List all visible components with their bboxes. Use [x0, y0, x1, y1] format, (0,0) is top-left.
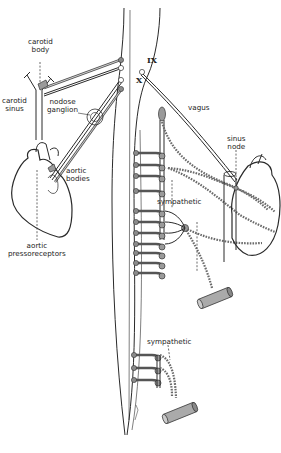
spinal-cord-inner-line — [129, 10, 130, 420]
spinal-nucleus — [131, 377, 136, 382]
sympathetic-ramus — [136, 253, 162, 256]
label-line: sinus — [2, 105, 27, 113]
spinal-nucleus — [133, 162, 138, 167]
label-line: ganglion — [47, 106, 78, 114]
leader-sympathetic-lower — [168, 345, 170, 360]
cardiac-innervation-diagram: carotid body carotid sinus nodose gangli… — [0, 0, 281, 453]
spinal-nucleus — [133, 173, 138, 178]
sympathetic-ramus — [134, 355, 158, 358]
chain-ganglion — [159, 222, 165, 228]
diagram-svg — [0, 0, 281, 453]
heart-right-aorta — [250, 154, 266, 168]
upper-sympathetic-chain — [159, 107, 166, 240]
heart-left — [12, 149, 72, 237]
spinal-nucleus — [133, 241, 138, 246]
spinal-nucleus — [133, 188, 138, 193]
sympathetic-ramus — [136, 233, 162, 236]
label-sympathetic-lower: sympathetic — [147, 338, 192, 346]
spinal-nucleus — [133, 250, 138, 255]
lower-postganglionic — [160, 368, 172, 396]
nucleus-dot — [118, 65, 123, 70]
spinal-nucleus — [133, 219, 138, 224]
label-nodose-ganglion: nodose ganglion — [47, 98, 78, 114]
label-aortic-bodies: aortic bodies — [66, 167, 90, 183]
chain-ganglion — [159, 176, 165, 182]
chain-ganglion — [159, 263, 165, 269]
sympathetic-ramus — [136, 211, 162, 214]
chain-ganglion — [159, 244, 165, 250]
blood-vessel-lower — [161, 402, 198, 425]
sympathetic-ramus — [136, 263, 162, 266]
spinal-nucleus — [131, 365, 136, 370]
nucleus-dot — [118, 77, 123, 82]
label-line: pressoreceptors — [8, 250, 66, 258]
label-line: body — [28, 46, 53, 54]
nucleus-dot — [118, 57, 123, 62]
spinal-nucleus — [131, 352, 136, 357]
label-line: node — [227, 143, 246, 151]
vagal-nucleus — [139, 69, 144, 74]
spinal-cord-outline-left — [112, 8, 125, 435]
sympathetic-ramus — [136, 153, 162, 156]
superior-cervical-ganglion — [159, 107, 166, 121]
carotid-sinus-nerve-2 — [44, 67, 120, 94]
chain-ganglion — [159, 233, 165, 239]
carotid-body-marker — [38, 80, 48, 90]
sympathetic-ramus — [136, 191, 162, 194]
aortic-nerve-1 — [50, 80, 120, 178]
spinal-nucleus — [133, 208, 138, 213]
chain-ganglion — [159, 153, 165, 159]
spinal-nucleus — [133, 150, 138, 155]
label-sympathetic-upper: sympathetic — [157, 198, 202, 206]
sympathetic-ramus — [136, 222, 162, 225]
blood-vessel-upper — [196, 287, 233, 310]
chain-ganglion — [159, 211, 165, 217]
chain-ganglion — [159, 253, 165, 259]
cranial-nerve-ix-label: IX — [147, 55, 157, 65]
carotid-sinus-nerve-1-inner — [44, 60, 120, 88]
sympathetic-ramus — [136, 273, 162, 276]
label-aortic-pressoreceptors: aortic pressoreceptors — [8, 242, 66, 258]
sympathetic-ramus — [136, 176, 162, 179]
label-sinus-node: sinus node — [227, 135, 246, 151]
sympathetic-to-vessel — [185, 228, 212, 288]
chain-ganglion — [159, 273, 165, 279]
sympathetic-ramus — [136, 165, 162, 168]
spinal-nucleus — [133, 260, 138, 265]
label-carotid-sinus: carotid sinus — [2, 97, 27, 113]
cranial-nerve-x-label: X — [136, 75, 142, 85]
label-line: bodies — [66, 175, 90, 183]
spinal-nucleus — [133, 270, 138, 275]
label-vagus: vagus — [188, 104, 210, 112]
sympathetic-ramus — [134, 368, 158, 371]
sinus-node — [234, 186, 238, 190]
label-carotid-body: carotid body — [28, 38, 53, 54]
upper-rami — [133, 150, 165, 279]
nucleus-dot — [118, 86, 123, 91]
spinal-nucleus — [133, 230, 138, 235]
chain-ganglion — [159, 165, 165, 171]
sympathetic-ramus — [136, 244, 162, 247]
